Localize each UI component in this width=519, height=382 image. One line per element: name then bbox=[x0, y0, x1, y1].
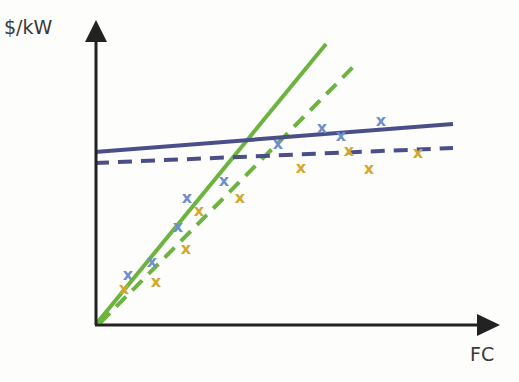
blue-x-marker-icon: x bbox=[376, 111, 387, 130]
blue-x-marker-icon: x bbox=[219, 171, 230, 190]
y-axis-arrow-icon bbox=[85, 20, 107, 42]
blue-x-marker-icon: x bbox=[182, 188, 193, 207]
gold-x-marker-icon: x bbox=[119, 279, 130, 298]
gold-x-marker-icon: x bbox=[235, 188, 246, 207]
trend-lines bbox=[95, 44, 453, 323]
x-axis-label: FC bbox=[470, 343, 494, 365]
x-axis-arrow-icon bbox=[477, 314, 500, 336]
gold-x-marker-icon: x bbox=[364, 159, 375, 178]
gold-x-marker-icon: x bbox=[296, 158, 307, 177]
green-dashed-line bbox=[100, 62, 358, 323]
gold-x-marker-icon: x bbox=[181, 239, 192, 258]
gold-x-marker-icon: x bbox=[344, 141, 355, 160]
y-axis-label: $/kW bbox=[4, 16, 52, 38]
axes bbox=[85, 20, 500, 336]
gold-x-marker-icon: x bbox=[194, 201, 205, 220]
chart-canvas: xxxxxxxxxxxxxxxxxx bbox=[0, 0, 519, 382]
gold-x-marker-icon: x bbox=[413, 143, 424, 162]
blue-x-marker-icon: x bbox=[317, 118, 328, 137]
blue-x-marker-icon: x bbox=[173, 217, 184, 236]
blue-x-marker-icon: x bbox=[147, 252, 158, 271]
blue-x-marker-icon: x bbox=[273, 134, 284, 153]
gold-x-marker-icon: x bbox=[151, 272, 162, 291]
